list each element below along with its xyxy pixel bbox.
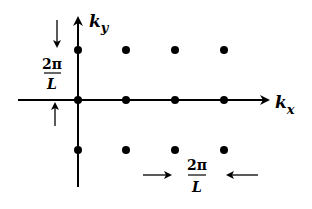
lattice-point (74, 146, 82, 154)
vertical-spacing-indicator: 2π L (42, 20, 62, 126)
lattice-point (220, 146, 228, 154)
lattice-point (171, 46, 179, 54)
spacing-numerator-left: 2π (42, 56, 62, 72)
ky-label: ky (89, 11, 110, 35)
spacing-denominator-left: L (46, 76, 57, 92)
lattice-point (171, 96, 179, 104)
lattice-point (74, 96, 82, 104)
k-space-diagram: ky kx 2π L 2π L (0, 0, 312, 209)
kx-label: kx (275, 92, 295, 117)
spacing-numerator-bottom: 2π (187, 157, 207, 173)
spacing-denominator-bottom: L (191, 179, 202, 195)
lattice-point (74, 46, 82, 54)
lattice-point (122, 96, 130, 104)
lattice-point (171, 146, 179, 154)
lattice-point (220, 96, 228, 104)
lattice-point (220, 46, 228, 54)
horizontal-spacing-indicator: 2π L (143, 157, 258, 195)
lattice-point (122, 146, 130, 154)
lattice-point (122, 46, 130, 54)
